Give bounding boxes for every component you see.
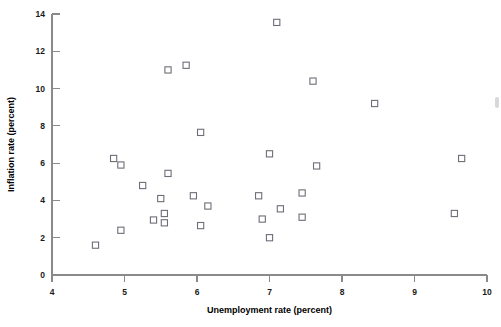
data-point-marker — [150, 217, 156, 223]
data-point-marker — [161, 210, 167, 216]
x-tick-label: 5 — [122, 287, 127, 297]
data-point-marker — [190, 193, 196, 199]
x-tick-label: 10 — [482, 287, 492, 297]
data-point-marker — [161, 220, 167, 226]
data-point-marker — [310, 78, 316, 84]
y-tick-label: 10 — [36, 84, 46, 94]
data-point-marker — [158, 195, 164, 201]
data-point-marker — [183, 62, 189, 68]
data-point-marker — [198, 223, 204, 229]
x-axis-ticks: 45678910 — [50, 275, 492, 297]
data-point-marker — [165, 170, 171, 176]
x-tick-label: 8 — [340, 287, 345, 297]
data-point-marker — [451, 210, 457, 216]
data-point-marker — [205, 203, 211, 209]
data-point-marker — [165, 67, 171, 73]
y-tick-label: 14 — [36, 9, 46, 19]
x-tick-label: 4 — [50, 287, 55, 297]
data-points-group — [92, 19, 464, 248]
data-point-marker — [118, 162, 124, 168]
y-tick-label: 0 — [40, 270, 45, 280]
data-point-marker — [459, 155, 465, 161]
data-point-marker — [372, 100, 378, 106]
data-point-marker — [274, 19, 280, 25]
data-point-marker — [256, 193, 262, 199]
x-tick-label: 9 — [412, 287, 417, 297]
plot-canvas: 02468101214 45678910 Unemployment rate (… — [0, 0, 501, 327]
data-point-marker — [277, 206, 283, 212]
page-artifact-speck — [495, 97, 499, 108]
data-point-marker — [299, 190, 305, 196]
y-tick-label: 12 — [36, 46, 46, 56]
data-point-marker — [118, 227, 124, 233]
y-tick-label: 6 — [40, 158, 45, 168]
x-tick-label: 6 — [195, 287, 200, 297]
data-point-marker — [259, 216, 265, 222]
y-tick-label: 4 — [40, 195, 45, 205]
data-point-marker — [266, 151, 272, 157]
data-point-marker — [140, 182, 146, 188]
axes-group — [52, 14, 487, 275]
y-tick-label: 8 — [40, 121, 45, 131]
data-point-marker — [198, 129, 204, 135]
scatter-plot-figure: 02468101214 45678910 Unemployment rate (… — [0, 0, 501, 327]
y-axis-ticks: 02468101214 — [36, 9, 60, 280]
y-axis-title: Inflation rate (percent) — [6, 97, 16, 192]
data-point-marker — [92, 242, 98, 248]
x-tick-label: 7 — [267, 287, 272, 297]
data-point-marker — [266, 235, 272, 241]
x-axis-title: Unemployment rate (percent) — [207, 305, 332, 315]
data-point-marker — [314, 163, 320, 169]
y-tick-label: 2 — [40, 233, 45, 243]
data-point-marker — [111, 155, 117, 161]
data-point-marker — [299, 214, 305, 220]
